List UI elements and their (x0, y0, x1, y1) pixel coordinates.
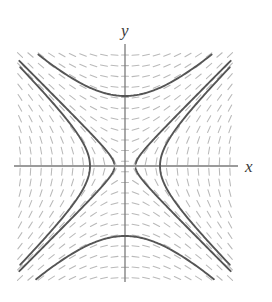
x-axis-label: x (245, 158, 253, 175)
y-axis-label: y (121, 22, 129, 39)
plot-canvas (0, 0, 272, 302)
slope-field-figure: y x (0, 0, 272, 302)
